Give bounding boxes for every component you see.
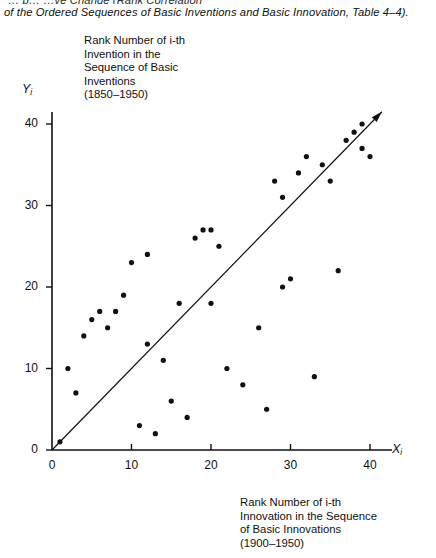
data-point bbox=[137, 423, 142, 428]
data-point bbox=[320, 162, 325, 167]
y-axis-subscript: i bbox=[30, 87, 32, 97]
data-point bbox=[145, 341, 150, 346]
axes bbox=[52, 112, 392, 450]
data-point bbox=[304, 154, 309, 159]
data-point bbox=[240, 382, 245, 387]
data-point bbox=[113, 309, 118, 314]
data-point bbox=[193, 236, 198, 241]
x-axis-description: Rank Number of i-th Innovation in the Se… bbox=[240, 496, 377, 550]
data-point bbox=[224, 366, 229, 371]
x-axis-subscript: i bbox=[400, 447, 402, 457]
data-point bbox=[328, 178, 333, 183]
data-point bbox=[336, 268, 341, 273]
data-point bbox=[97, 309, 102, 314]
y-axis-description: Rank Number of i-th Invention in the Seq… bbox=[84, 34, 185, 102]
data-point bbox=[129, 260, 134, 265]
diagonal-trend-line bbox=[52, 112, 382, 450]
data-point bbox=[177, 301, 182, 306]
data-point bbox=[280, 195, 285, 200]
data-point bbox=[208, 301, 213, 306]
x-tick-label: 10 bbox=[120, 458, 144, 472]
data-point bbox=[264, 407, 269, 412]
axis-ticks bbox=[46, 124, 370, 450]
data-point bbox=[288, 276, 293, 281]
x-tick-label: 30 bbox=[279, 458, 303, 472]
data-point bbox=[161, 358, 166, 363]
data-point bbox=[216, 244, 221, 249]
data-point bbox=[169, 399, 174, 404]
data-point bbox=[359, 146, 364, 151]
trend-line-segment bbox=[52, 112, 382, 450]
data-point bbox=[185, 415, 190, 420]
data-point bbox=[272, 178, 277, 183]
plot-canvas bbox=[0, 0, 436, 558]
data-point bbox=[200, 227, 205, 232]
x-axis-name: Xi bbox=[392, 442, 402, 457]
data-point bbox=[359, 121, 364, 126]
data-point bbox=[89, 317, 94, 322]
x-tick-label: 20 bbox=[199, 458, 223, 472]
data-point bbox=[344, 138, 349, 143]
scatter-plot: Yi Xi 010203040010203040 bbox=[0, 0, 436, 558]
data-point bbox=[208, 227, 213, 232]
data-point bbox=[296, 170, 301, 175]
x-tick-label: 0 bbox=[40, 458, 64, 472]
data-point bbox=[81, 333, 86, 338]
data-point bbox=[256, 325, 261, 330]
y-axis-name: Yi bbox=[22, 82, 32, 97]
y-tick-label: 0 bbox=[16, 442, 38, 456]
data-point bbox=[280, 284, 285, 289]
data-point bbox=[312, 374, 317, 379]
data-point bbox=[73, 390, 78, 395]
data-point bbox=[65, 366, 70, 371]
y-tick-label: 40 bbox=[16, 116, 38, 130]
data-point bbox=[153, 431, 158, 436]
data-point bbox=[57, 439, 62, 444]
y-tick-label: 10 bbox=[16, 361, 38, 375]
data-point bbox=[105, 325, 110, 330]
data-point bbox=[145, 252, 150, 257]
y-tick-label: 30 bbox=[16, 198, 38, 212]
y-tick-label: 20 bbox=[16, 279, 38, 293]
data-point bbox=[121, 293, 126, 298]
x-tick-label: 40 bbox=[358, 458, 382, 472]
data-point bbox=[352, 130, 357, 135]
data-point bbox=[367, 154, 372, 159]
